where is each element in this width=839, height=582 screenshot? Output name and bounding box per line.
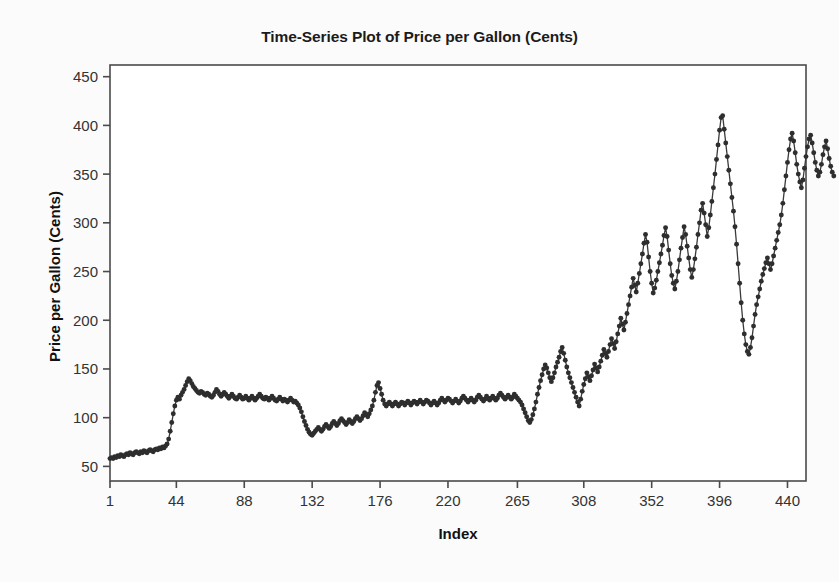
svg-text:50: 50: [81, 458, 98, 475]
svg-text:88: 88: [236, 492, 253, 509]
x-axis-ticks: 14488132176220265308352396440: [106, 481, 800, 509]
svg-text:220: 220: [435, 492, 460, 509]
svg-text:250: 250: [73, 263, 98, 280]
svg-text:132: 132: [300, 492, 325, 509]
svg-text:308: 308: [571, 492, 596, 509]
svg-text:396: 396: [707, 492, 732, 509]
svg-text:400: 400: [73, 117, 98, 134]
plot-frame: [110, 65, 806, 481]
chart-figure: Time-Series Plot of Price per Gallon (Ce…: [0, 0, 839, 582]
svg-text:350: 350: [73, 166, 98, 183]
svg-text:200: 200: [73, 312, 98, 329]
svg-text:450: 450: [73, 68, 98, 85]
svg-text:176: 176: [368, 492, 393, 509]
svg-text:100: 100: [73, 409, 98, 426]
svg-text:1: 1: [106, 492, 114, 509]
plot-area: 50100150200250300350400450 1448813217622…: [0, 0, 839, 582]
svg-text:352: 352: [639, 492, 664, 509]
svg-text:150: 150: [73, 360, 98, 377]
svg-text:440: 440: [775, 492, 800, 509]
svg-text:44: 44: [168, 492, 185, 509]
y-axis-ticks: 50100150200250300350400450: [73, 68, 110, 475]
svg-text:300: 300: [73, 214, 98, 231]
svg-text:265: 265: [505, 492, 530, 509]
